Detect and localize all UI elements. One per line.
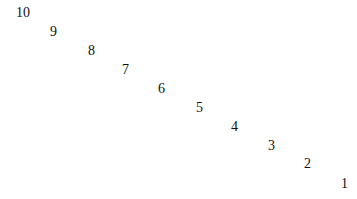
number-1: 1 [341,177,348,191]
number-10: 10 [16,6,30,20]
number-9: 9 [50,25,57,39]
number-3: 3 [268,139,275,153]
number-6: 6 [158,82,165,96]
number-2: 2 [304,157,311,171]
number-5: 5 [196,101,203,115]
number-7: 7 [122,63,129,77]
number-8: 8 [88,44,95,58]
number-4: 4 [231,120,238,134]
